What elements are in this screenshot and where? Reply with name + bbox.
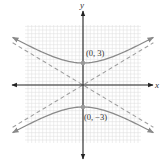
vertex-point-bottom [81,105,86,110]
axes [12,11,153,159]
x-axis-label: x [154,80,159,90]
y-axis-label: y [79,0,84,10]
vertex-label-top: (0, 3) [86,48,105,58]
vertex-label-bottom: (0, −3) [84,112,107,122]
hyperbola-plot: y x (0, 3) (0, −3) [0,0,167,165]
vertex-point-top [81,61,86,66]
